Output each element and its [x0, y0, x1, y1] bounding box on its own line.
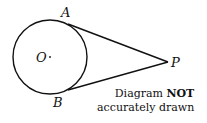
- tangent-pb: [68, 62, 168, 90]
- center-dot: [49, 56, 51, 58]
- tangent-pa: [68, 24, 168, 62]
- label-p: P: [171, 56, 180, 69]
- note-emphasis: NOT: [166, 87, 194, 100]
- note-prefix: Diagram: [115, 87, 167, 100]
- label-b: B: [53, 96, 63, 109]
- label-a: A: [61, 6, 70, 19]
- note-line2: accurately drawn: [97, 101, 194, 115]
- label-o: O: [36, 51, 47, 64]
- disclaimer-note: Diagram NOT accurately drawn: [97, 87, 194, 115]
